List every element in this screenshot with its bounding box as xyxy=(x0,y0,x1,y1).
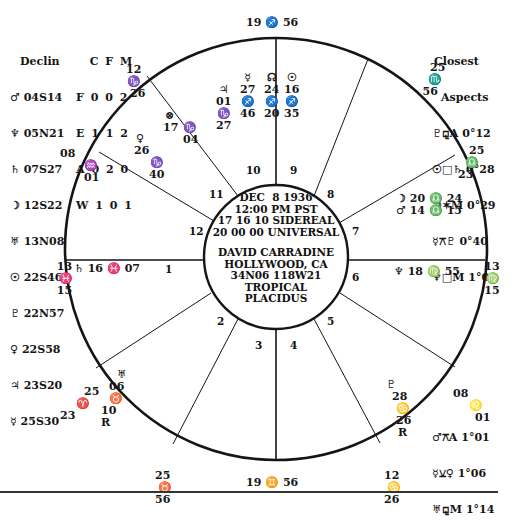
cusp-3 xyxy=(173,319,238,444)
house-number-6: 6 xyxy=(352,272,359,283)
cusp-5 xyxy=(314,319,380,443)
house-number-11: 11 xyxy=(209,189,224,200)
page-divider xyxy=(0,491,498,493)
house-number-12: 12 xyxy=(189,226,204,237)
declination-row: ♃ 23S20 xyxy=(10,380,64,392)
planet-saturn: ♄ 16 ♓ 07 xyxy=(74,263,140,275)
declination-row: ♀ 22S58 xyxy=(10,344,64,356)
cusp-8-label: 25♎23 xyxy=(455,121,484,193)
cusp-2-label: 25♈23 xyxy=(60,362,99,434)
house-number-1: 1 xyxy=(165,264,172,275)
planet-venus: ♀26♑40 xyxy=(134,109,164,193)
chart-center-info: DEC 8 1936 12:00 PM PST 17 16 10 SIDEREA… xyxy=(204,192,348,305)
declination-title: Declin xyxy=(10,56,64,68)
mc-cusp-label: 19 ♐ 56 xyxy=(246,17,298,29)
person-name: DAVID CARRADINE xyxy=(204,247,348,259)
declination-row: ☿ 25S30 xyxy=(10,416,64,428)
cusp-5-label: 12♋26 xyxy=(384,446,401,518)
planet-neptune: ♆ 18 ♍ 55 xyxy=(394,266,460,278)
cusp-12-label: 08♒01 xyxy=(60,124,99,196)
planet-mars: ♂ 14 ♎ 15 xyxy=(396,205,462,217)
cusp-9-label: 25♏56 xyxy=(415,38,445,110)
house-number-5: 5 xyxy=(327,316,334,327)
planet-pluto: ♇28♋26R xyxy=(386,355,411,451)
declination-row: ♄ 07S27 xyxy=(10,164,64,176)
ic-cusp-label: 19 ♊ 56 xyxy=(246,477,298,489)
declination-table: Declin ♂ 04S14 ♆ 05N21 ♄ 07S27 ☽ 12S22 ♅… xyxy=(10,32,64,440)
planet-mercury: ☿27♐46 xyxy=(240,48,255,132)
desc-cusp-label: 13♍15 xyxy=(484,237,500,309)
house-number-2: 2 xyxy=(217,316,224,327)
asc-cusp-label: 13♓15 xyxy=(56,237,73,309)
planet-part-of-fortune: ⊗17♑04 xyxy=(163,86,198,158)
aspect-row: ☿⚺♀ 1°06 xyxy=(432,468,494,480)
house-number-10: 10 xyxy=(246,165,261,176)
planet-jupiter: ♃01♑27 xyxy=(216,60,231,144)
declination-row: ♂ 04S14 xyxy=(10,92,64,104)
house-number-8: 8 xyxy=(327,189,334,200)
elements-row: W 1 0 1 xyxy=(76,200,132,212)
universal-time: 20 00 00 UNIVERSAL xyxy=(204,227,348,239)
planet-uranus: ♅06♉10R xyxy=(101,345,127,441)
house-system: PLACIDUS xyxy=(204,293,348,305)
planet-sun: ☉16♐35 xyxy=(284,48,299,132)
declination-row: ♇ 22N57 xyxy=(10,308,64,320)
sidereal-time: 17 16 10 SIDEREAL xyxy=(204,215,348,227)
cusp-11-label: 12♑26 xyxy=(122,40,145,112)
house-number-3: 3 xyxy=(255,340,262,351)
declination-row: ☽ 12S22 xyxy=(10,200,64,212)
cusp-3-label: 25♉56 xyxy=(155,446,172,518)
house-number-4: 4 xyxy=(290,340,297,351)
house-number-9: 9 xyxy=(290,165,297,176)
declination-row: ♆ 05N21 xyxy=(10,128,64,140)
planet-north-node: ☊24♐20 xyxy=(264,48,279,132)
cusp-6-label: 08♌01 xyxy=(453,364,490,436)
cusp-9 xyxy=(314,59,368,196)
aspect-row: ♅⚼M 1°14 xyxy=(432,504,494,516)
coordinates: 34N06 118W21 xyxy=(204,270,348,282)
house-number-7: 7 xyxy=(352,226,359,237)
